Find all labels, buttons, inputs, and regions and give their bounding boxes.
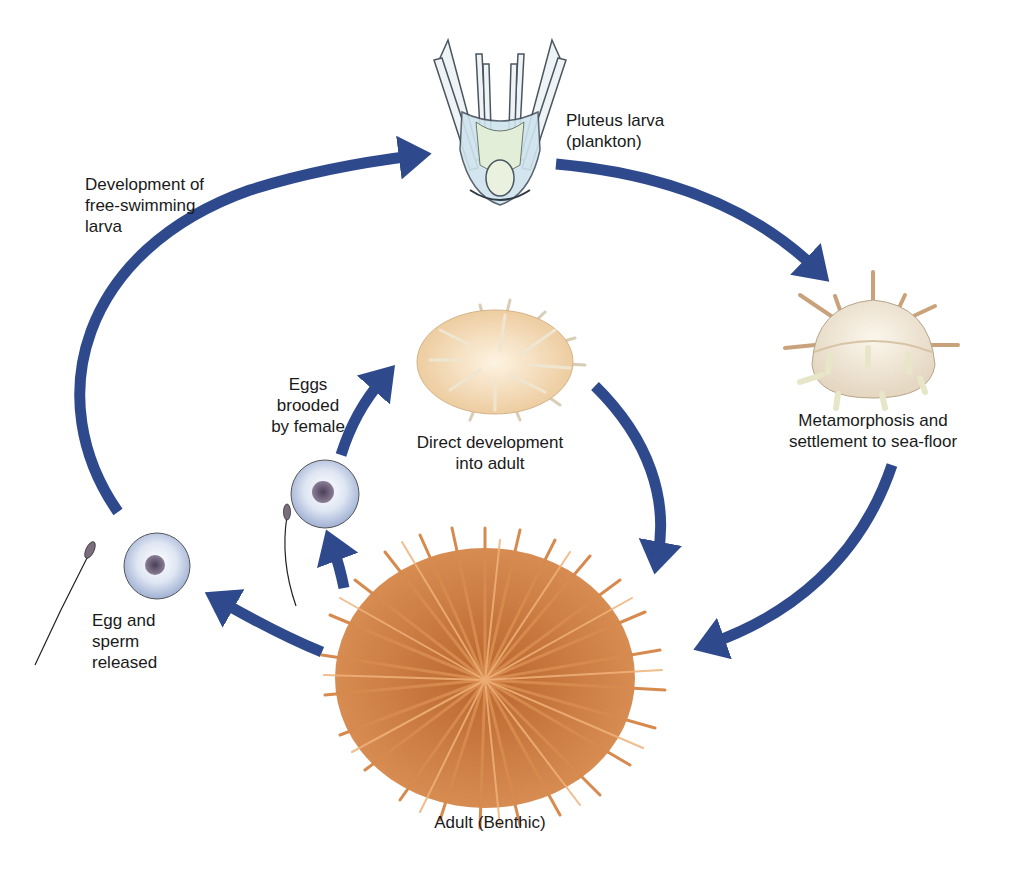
direct-development-urchin-illustration (417, 300, 585, 420)
released-egg-illustration (124, 533, 190, 599)
label-eggs-brooded: Eggs brooded by female (268, 374, 348, 437)
sperm-illustration (35, 540, 97, 665)
label-adult-benthic: Adult (Benthic) (400, 812, 580, 833)
sea-urchin-life-cycle-diagram: Pluteus larva (plankton) Development of … (0, 0, 1021, 871)
label-direct-development: Direct development into adult (400, 432, 580, 474)
pluteus-larva-illustration (434, 40, 566, 205)
label-development-free-swimming: Development of free-swimming larva (85, 174, 204, 237)
label-pluteus-larva: Pluteus larva (plankton) (566, 110, 664, 152)
arrow-adult-to-egg (222, 602, 322, 652)
arrow-adult-to-brooded (333, 548, 344, 588)
label-metamorphosis: Metamorphosis and settlement to sea-floo… (768, 410, 978, 452)
adult-urchin-illustration (322, 528, 665, 828)
juvenile-urchin-illustration (785, 272, 958, 408)
arrow-direct-to-adult (595, 386, 661, 555)
arrow-larva-to-juvenile (556, 164, 815, 268)
label-egg-sperm-released: Egg and sperm released (92, 610, 157, 673)
arrow-juvenile-to-adult (712, 465, 892, 643)
